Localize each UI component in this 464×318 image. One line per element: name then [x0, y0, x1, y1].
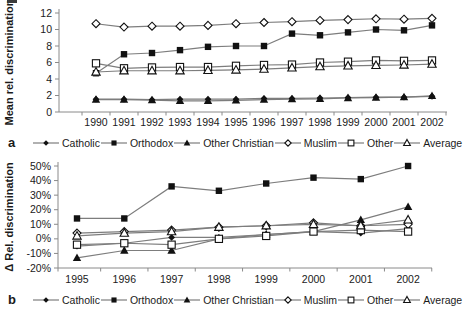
y-axis-title: Δ Rel. discrimination: [3, 162, 15, 272]
y-tick-label: -10%: [26, 247, 51, 259]
legend-item-catholic: Catholic: [32, 137, 100, 149]
y-tick-label: 8: [46, 40, 52, 52]
data-point-marker: [405, 163, 411, 169]
x-tick-label: 1996: [113, 273, 137, 285]
data-point-marker: [111, 297, 116, 302]
legend-item-other-christian: Other Christian: [173, 137, 274, 149]
x-tick-label: 1998: [308, 116, 332, 128]
data-point-marker: [263, 180, 269, 186]
x-tick-label: 1995: [224, 116, 248, 128]
data-point-marker: [216, 188, 222, 194]
data-point-marker: [232, 20, 240, 28]
data-point-marker: [401, 27, 407, 33]
data-point-marker: [233, 43, 239, 49]
x-axis-ticks: 1990199119921993199419951996199719981999…: [82, 112, 446, 128]
data-point-marker: [168, 241, 175, 248]
legend-label: Orthodox: [130, 294, 173, 306]
data-point-marker: [404, 216, 412, 224]
x-tick-label: 1990: [84, 116, 108, 128]
average-marker-icon: [393, 294, 421, 306]
panel-a-label: a: [8, 135, 32, 150]
legend-label: Other Christian: [203, 137, 274, 149]
x-tick-label: 2001: [392, 116, 416, 128]
data-point-marker: [348, 297, 354, 303]
legend-item-average: Average: [393, 294, 462, 306]
other-christian-marker-icon: [173, 137, 201, 149]
legend-row-a: a CatholicOrthodoxOther ChristianMuslimO…: [0, 132, 453, 153]
y-tick-label: 0%: [36, 232, 51, 244]
legend-item-other: Other: [337, 137, 393, 149]
x-tick-label: 1999: [336, 116, 360, 128]
legend-item-average: Average: [393, 137, 462, 149]
data-point-marker: [43, 297, 48, 302]
legend-label: Average: [423, 137, 462, 149]
x-tick-label: 1994: [196, 116, 220, 128]
panel-b-label: b: [8, 292, 32, 307]
legend-label: Other Christian: [203, 294, 274, 306]
y-tick-label: 30%: [30, 189, 51, 201]
y-tick-label: 10%: [30, 218, 51, 230]
chart-b: -20%-10%0%10%20%30%40%50%199519961997199…: [0, 153, 453, 289]
page-crop-artifact: [7, 0, 17, 3]
data-point-marker: [345, 29, 351, 35]
panel-a: 0246810121990199119921993199419951996199…: [0, 0, 453, 153]
data-point-marker: [310, 174, 316, 180]
legend-item-muslim: Muslim: [274, 294, 337, 306]
data-point-marker: [261, 43, 267, 49]
data-point-marker: [111, 140, 116, 145]
y-tick-label: 20%: [30, 203, 51, 215]
series-line-orthodox: [77, 166, 408, 218]
legend-item-muslim: Muslim: [274, 137, 337, 149]
y-tick-label: -20%: [26, 262, 51, 274]
data-point-marker: [317, 32, 323, 38]
data-point-marker: [310, 228, 317, 235]
data-point-marker: [405, 228, 412, 235]
data-point-marker: [400, 15, 408, 23]
legend-row-b: b CatholicOrthodoxOther ChristianMuslimO…: [0, 289, 453, 310]
data-point-marker: [358, 176, 364, 182]
data-point-marker: [168, 183, 174, 189]
catholic-marker-icon: [32, 137, 60, 149]
data-point-marker: [289, 30, 295, 36]
muslim-marker-icon: [274, 294, 302, 306]
y-axis-ticks: -20%-10%0%10%20%30%40%50%: [26, 160, 58, 274]
legend-label: Catholic: [62, 294, 100, 306]
other-marker-icon: [337, 294, 365, 306]
data-point-marker: [205, 44, 211, 50]
data-point-marker: [285, 296, 291, 302]
data-point-marker: [348, 140, 354, 146]
legend-label: Muslim: [304, 294, 337, 306]
data-point-marker: [92, 20, 100, 28]
y-tick-label: 40%: [30, 174, 51, 186]
data-point-marker: [428, 92, 436, 100]
legend-label: Average: [423, 294, 462, 306]
legend-item-other-christian: Other Christian: [173, 294, 274, 306]
x-tick-label: 1993: [168, 116, 192, 128]
legend-a: CatholicOrthodoxOther ChristianMuslimOth…: [32, 137, 464, 149]
data-point-marker: [73, 241, 80, 248]
other-marker-icon: [337, 137, 365, 149]
x-tick-label: 1996: [252, 116, 276, 128]
legend-item-orthodox: Orthodox: [100, 137, 173, 149]
y-tick-label: 6: [46, 56, 52, 68]
data-point-marker: [121, 51, 127, 57]
x-tick-label: 2002: [420, 116, 444, 128]
x-tick-label: 1999: [255, 273, 279, 285]
legend-item-other: Other: [337, 294, 393, 306]
legend-item-catholic: Catholic: [32, 294, 100, 306]
legend-item-orthodox: Orthodox: [100, 294, 173, 306]
orthodox-marker-icon: [100, 294, 128, 306]
muslim-marker-icon: [274, 137, 302, 149]
x-tick-label: 1995: [65, 273, 89, 285]
data-point-marker: [263, 232, 270, 239]
x-tick-label: 1992: [140, 116, 164, 128]
data-point-marker: [372, 15, 380, 23]
y-tick-label: 50%: [30, 160, 51, 172]
legend-label: Other: [367, 137, 393, 149]
legend-label: Other: [367, 294, 393, 306]
y-tick-label: 2: [46, 89, 52, 101]
catholic-marker-icon: [32, 294, 60, 306]
legend-label: Muslim: [304, 137, 337, 149]
x-tick-label: 1997: [280, 116, 304, 128]
legend-label: Catholic: [62, 137, 100, 149]
